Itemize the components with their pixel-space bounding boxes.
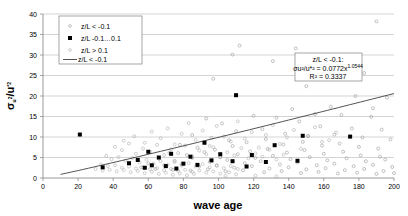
data-point-filled [150, 163, 154, 167]
data-point-open [301, 140, 304, 143]
data-point-open [363, 72, 366, 75]
data-point-open [308, 156, 311, 159]
data-point-open-2 [163, 154, 166, 157]
data-point-open [287, 166, 290, 169]
data-point-open [196, 146, 199, 149]
legend-label-1: z/L -0.1…0.1 [81, 35, 121, 42]
data-point-open-2 [105, 154, 108, 157]
data-point-open [259, 160, 262, 163]
data-point-open [329, 105, 332, 108]
equation-line-3: R² = 0.3337 [310, 73, 347, 80]
series-zl-neutral-points [78, 93, 352, 170]
data-point-open-2 [236, 120, 239, 123]
data-point-open [268, 167, 271, 170]
y-tick-label: 35 [29, 31, 37, 38]
equation-annotation: z/L < -0.1: σu²/u*² = 0.0772x1.0544 R² =… [293, 53, 363, 81]
data-point-open [264, 138, 267, 141]
data-point-open [342, 150, 345, 153]
chart-canvas: 020406080100120140160180200 051015202530… [0, 0, 408, 216]
data-point-open-2 [236, 167, 239, 170]
x-tick-label: 20 [74, 183, 82, 190]
data-point-open [278, 163, 281, 166]
data-point-open-2 [264, 133, 267, 136]
data-point-open [322, 152, 325, 155]
data-point-open-2 [127, 165, 130, 168]
data-point-filled [78, 133, 82, 137]
data-point-open-2 [117, 156, 120, 159]
data-point-open [305, 85, 308, 88]
data-point-filled [157, 156, 161, 160]
data-point-open [359, 154, 362, 157]
data-point-open-2 [240, 147, 243, 150]
legend-label-0: z/L < -0.1 [81, 23, 110, 30]
trend-line-path [61, 94, 394, 175]
data-point-open-2 [233, 154, 236, 157]
data-point-open [298, 120, 301, 123]
data-point-open [282, 143, 285, 146]
x-tick-label: 100 [213, 183, 225, 190]
data-point-open-2 [110, 158, 113, 161]
y-tick-label: 15 [29, 113, 37, 120]
data-point-open-2 [257, 146, 260, 149]
y-tick-label: 0 [33, 175, 37, 182]
data-point-filled [174, 167, 178, 171]
x-tick-label: 180 [353, 183, 365, 190]
data-point-open [263, 171, 266, 174]
data-point-open [326, 159, 329, 162]
data-point-filled [202, 141, 206, 145]
data-point-open [191, 133, 194, 136]
data-point-filled [101, 165, 105, 169]
data-point-open [280, 170, 283, 173]
data-point-open-2 [187, 162, 190, 165]
data-point-open-2 [164, 171, 167, 174]
data-point-filled [245, 165, 249, 169]
data-point-open [333, 162, 336, 165]
data-point-open [385, 96, 388, 99]
data-point-open-2 [192, 172, 195, 175]
data-point-open-2 [120, 149, 123, 152]
data-point-open [245, 141, 248, 144]
data-point-open [375, 172, 378, 175]
data-point-open-2 [127, 142, 130, 145]
x-tick-label: 160 [318, 183, 330, 190]
data-point-open [370, 115, 373, 118]
data-point-open-2 [254, 174, 257, 177]
data-point-open [317, 170, 320, 173]
x-tick-label: 40 [109, 183, 117, 190]
data-point-open [233, 166, 236, 169]
data-point-filled [218, 152, 222, 156]
data-point-open [250, 165, 253, 168]
data-point-filled [188, 155, 192, 159]
data-point-filled [295, 159, 299, 163]
data-point-open-2 [243, 137, 246, 140]
data-point-open [371, 163, 374, 166]
data-point-open [235, 130, 238, 133]
data-point-open-2 [101, 169, 104, 172]
data-point-open-2 [108, 168, 111, 171]
data-point-open [321, 144, 324, 147]
data-point-open [377, 147, 380, 150]
data-point-open [363, 167, 366, 170]
data-point-open [319, 125, 322, 128]
data-point-open [391, 165, 394, 168]
data-point-open [213, 148, 216, 151]
data-point-open [236, 153, 239, 156]
y-tick-label: 40 [29, 11, 37, 18]
data-point-open [336, 172, 339, 175]
data-point-filled [348, 135, 352, 139]
data-point-open [303, 149, 306, 152]
data-point-open-2 [113, 145, 116, 148]
data-point-open-2 [285, 136, 288, 139]
data-point-open-2 [122, 169, 125, 172]
data-point-open [212, 77, 215, 80]
data-point-open-2 [314, 126, 317, 129]
data-point-open-2 [208, 145, 211, 148]
data-point-open-2 [143, 141, 146, 144]
x-tick-label: 200 [388, 183, 400, 190]
data-point-open [356, 171, 359, 174]
data-point-open-2 [122, 139, 125, 142]
y-tick-label: 5 [33, 154, 37, 161]
data-point-filled [209, 158, 213, 162]
data-point-open-2 [229, 165, 232, 168]
data-point-open [299, 172, 302, 175]
